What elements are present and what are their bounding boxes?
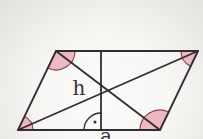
- angle-sector-top-right: [181, 51, 198, 66]
- base-label: a: [100, 124, 112, 139]
- figure-canvas: h a: [0, 0, 203, 139]
- height-label: h: [73, 76, 86, 100]
- parallelogram-diagram: h a: [0, 0, 203, 139]
- right-angle-dot: [94, 121, 97, 124]
- right-angle-arc: [84, 113, 101, 130]
- figure-lines: [18, 51, 198, 130]
